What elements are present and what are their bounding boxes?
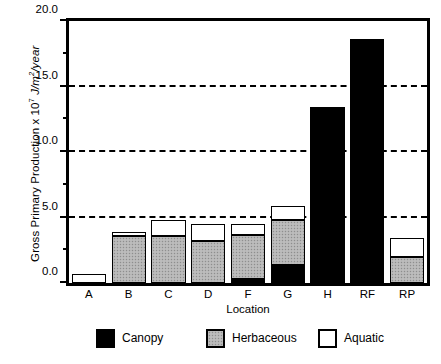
bar-segment-canopy	[310, 107, 344, 283]
bar-column	[350, 21, 384, 283]
x-axis-tick-label: H	[323, 288, 331, 300]
legend-item-aquatic: Aquatic	[318, 327, 384, 349]
x-axis-tick-label: B	[125, 288, 133, 300]
y-axis-minor-tick	[63, 248, 69, 250]
legend-swatch-herbaceous	[206, 329, 225, 348]
bar-group	[69, 21, 427, 283]
bar-column	[231, 21, 265, 283]
bar-column	[271, 21, 305, 283]
y-axis-title-lead: Gross Primary Production x 10	[29, 102, 41, 261]
bar-column	[191, 21, 225, 283]
bar-segment-herbaceous	[390, 257, 424, 283]
legend-item-canopy: Canopy	[96, 327, 163, 349]
y-axis-minor-tick	[63, 52, 69, 54]
legend-item-herbaceous: Herbaceous	[206, 327, 297, 349]
bar-segment-herbaceous	[151, 236, 185, 283]
bar-segment-aquatic	[390, 238, 424, 256]
legend-label: Aquatic	[344, 331, 384, 345]
bar-segment-herbaceous	[112, 236, 146, 283]
y-axis-tick	[60, 281, 69, 283]
bar-segment-aquatic	[72, 274, 106, 283]
plot-area: 0.05.010.015.020.0	[66, 18, 430, 286]
y-axis-tick	[60, 85, 69, 87]
y-axis-tick-label: 10.0	[36, 134, 58, 146]
bar-column	[310, 21, 344, 283]
legend-label: Canopy	[122, 331, 163, 345]
bar-segment-herbaceous	[231, 235, 265, 280]
bar-column	[151, 21, 185, 283]
legend-swatch-aquatic	[318, 329, 337, 348]
y-axis-tick-label: 20.0	[36, 3, 58, 15]
bar-column	[390, 21, 424, 283]
chart-figure: Gross Primary Production x 107 J/m2/year…	[0, 0, 441, 364]
x-axis-tick-label: G	[283, 288, 292, 300]
x-axis-tick-label: RF	[360, 288, 375, 300]
y-axis-tick	[60, 150, 69, 152]
y-axis-minor-tick	[63, 183, 69, 185]
chart-legend: CanopyHerbaceousAquatic	[96, 327, 396, 353]
bar-segment-aquatic	[151, 220, 185, 236]
y-axis-tick-label: 5.0	[42, 200, 58, 212]
bar-segment-canopy	[350, 39, 384, 283]
bar-segment-aquatic	[231, 224, 265, 234]
bar-segment-canopy	[231, 279, 265, 283]
y-axis-tick-label: 0.0	[42, 265, 58, 277]
y-axis-tick	[60, 216, 69, 218]
bar-segment-herbaceous	[191, 241, 225, 283]
y-axis-title: Gross Primary Production x 107 J/m2/year	[30, 14, 42, 294]
bar-segment-aquatic	[271, 206, 305, 220]
legend-label: Herbaceous	[232, 331, 297, 345]
x-axis-tick-label: D	[204, 288, 212, 300]
plot-inner	[69, 21, 427, 283]
bar-segment-canopy	[271, 265, 305, 283]
bar-column	[112, 21, 146, 283]
bar-segment-herbaceous	[271, 220, 305, 265]
y-axis-title-exponent: 7	[27, 98, 36, 102]
x-axis-title: Location	[66, 303, 430, 315]
x-axis-tick-label: RP	[399, 288, 415, 300]
legend-swatch-canopy	[96, 329, 115, 348]
x-axis-tick-label: A	[85, 288, 93, 300]
x-axis-tick-label: C	[164, 288, 172, 300]
x-axis-tick-label: F	[244, 288, 251, 300]
bar-segment-aquatic	[191, 224, 225, 241]
bar-column	[72, 21, 106, 283]
y-axis-minor-tick	[63, 117, 69, 119]
y-axis-tick-label: 15.0	[36, 69, 58, 81]
y-axis-tick	[60, 19, 69, 21]
bar-segment-aquatic	[112, 232, 146, 236]
